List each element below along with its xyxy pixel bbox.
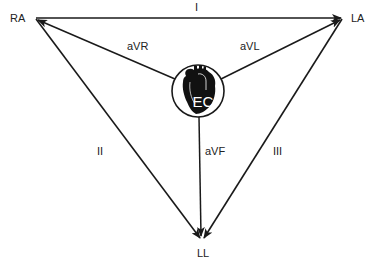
lead-avr-label: aVR (127, 40, 148, 52)
einthoven-diagram: EC RA LA LL I aVR aVL II aVF III (0, 0, 375, 263)
ll-label: LL (197, 247, 209, 259)
lead-ii-label: II (97, 145, 103, 157)
lead-avl-label: aVL (240, 40, 260, 52)
lead-ii-arrow (36, 19, 200, 238)
lead-avf-arrow (199, 117, 201, 236)
heart-circle: EC (172, 65, 224, 117)
ra-label: RA (10, 12, 26, 24)
la-label: LA (351, 12, 365, 24)
lead-avf-label: aVF (205, 145, 225, 157)
lead-iii-arrow (204, 19, 342, 238)
lead-i-label: I (195, 1, 198, 13)
lead-iii-label: III (273, 145, 282, 157)
ec-label: EC (193, 93, 214, 110)
